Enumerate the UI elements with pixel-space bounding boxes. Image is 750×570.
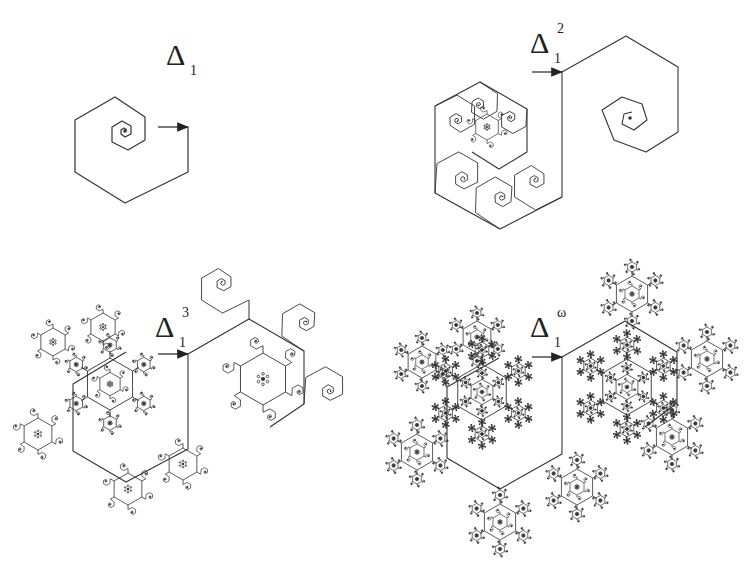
superscript: 3 <box>182 306 189 320</box>
label-delta-1-squared: Δ 1 2 <box>530 28 549 58</box>
label-delta-1-omega: Δ 1 ω <box>530 312 549 342</box>
panel-delta-1-omega <box>386 259 739 557</box>
superscript: ω <box>557 306 566 320</box>
delta-symbol: Δ <box>530 310 549 343</box>
subscript: 1 <box>554 52 561 66</box>
subscript: 1 <box>179 336 186 350</box>
label-delta-1-cubed: Δ 1 3 <box>155 312 174 342</box>
subscript: 1 <box>190 64 197 78</box>
delta-symbol: Δ <box>166 38 185 71</box>
panel-delta-1 <box>75 97 188 203</box>
delta-symbol: Δ <box>530 26 549 59</box>
panel-delta-1-cubed <box>13 269 342 515</box>
delta-symbol: Δ <box>155 310 174 343</box>
subscript: 1 <box>554 336 561 350</box>
superscript: 2 <box>557 22 564 36</box>
fractal-figure <box>0 0 750 570</box>
label-delta-1: Δ 1 <box>166 40 185 70</box>
